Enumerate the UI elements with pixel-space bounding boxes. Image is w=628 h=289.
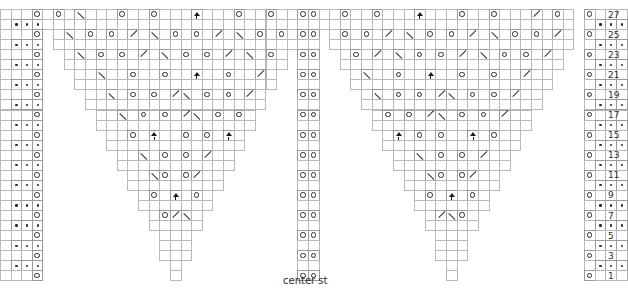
ssk-icon <box>139 50 149 59</box>
yo-icon <box>309 231 319 240</box>
yo-icon <box>436 151 446 160</box>
yo-icon <box>128 131 138 140</box>
purl-icon <box>22 80 32 89</box>
yo-icon <box>490 131 500 140</box>
purl-icon <box>22 221 32 230</box>
yo-icon <box>182 50 192 59</box>
purl-icon <box>606 261 616 270</box>
yo-icon <box>490 90 500 99</box>
yo-icon <box>351 50 361 59</box>
k2tog-icon <box>107 90 117 99</box>
purl-icon <box>12 261 22 270</box>
cdd-icon <box>468 131 478 140</box>
chart-cell-r14-c48 <box>510 140 522 151</box>
purl-icon <box>33 100 43 109</box>
purl-icon <box>617 261 627 270</box>
purl-icon <box>606 121 616 130</box>
yo-icon <box>309 211 319 220</box>
yo-icon <box>171 30 181 39</box>
row-number-1: 1 <box>608 272 614 281</box>
yo-icon <box>309 191 319 200</box>
chart-cell-r18-c24 <box>255 99 267 110</box>
yo-icon <box>33 171 43 180</box>
purl-icon <box>617 241 627 250</box>
purl-icon <box>596 241 606 250</box>
yo-icon <box>54 10 64 19</box>
yo-icon <box>309 70 319 79</box>
yo-icon <box>585 111 595 120</box>
yo-icon <box>585 211 595 220</box>
purl-icon <box>22 241 32 250</box>
purl-icon <box>606 201 616 210</box>
purl-icon <box>596 40 606 49</box>
yo-icon <box>309 10 319 19</box>
k2tog-icon <box>415 151 425 160</box>
ssk-icon <box>192 171 202 180</box>
purl-icon <box>12 60 22 69</box>
yo-icon <box>128 90 138 99</box>
yo-icon <box>532 30 542 39</box>
purl-icon <box>617 201 627 210</box>
yo-icon <box>585 171 595 180</box>
purl-icon <box>12 141 22 150</box>
chart-cell-r1-c42 <box>446 270 458 281</box>
yo-icon <box>500 50 510 59</box>
ssk-icon <box>521 70 531 79</box>
purl-icon <box>12 201 22 210</box>
purl-icon <box>617 141 627 150</box>
yo-icon <box>394 90 404 99</box>
chart-cell-r10-c20 <box>212 180 224 191</box>
yo-icon <box>128 70 138 79</box>
k2tog-icon <box>139 151 149 160</box>
row-number-21: 21 <box>608 71 619 80</box>
yo-icon <box>298 70 308 79</box>
ssk-icon <box>182 111 192 120</box>
chart-cell-r1-c16 <box>170 270 182 281</box>
yo-icon <box>33 271 43 280</box>
chart-cell-r12-c47 <box>499 160 511 171</box>
chart-cell-r16-c23 <box>244 120 256 131</box>
yo-icon <box>405 111 415 120</box>
cdd-icon <box>394 131 404 140</box>
yo-icon <box>203 131 213 140</box>
purl-icon <box>33 221 43 230</box>
purl-icon <box>33 161 43 170</box>
k2tog-icon <box>97 70 107 79</box>
yo-icon <box>479 111 489 120</box>
yo-icon <box>192 30 202 39</box>
purl-icon <box>596 181 606 190</box>
yo-icon <box>585 30 595 39</box>
purl-icon <box>12 161 22 170</box>
yo-icon <box>235 111 245 120</box>
yo-icon <box>235 10 245 19</box>
yo-icon <box>309 251 319 260</box>
chart-cell-r16-c49 <box>520 120 532 131</box>
purl-icon <box>12 40 22 49</box>
chart-cell-r14-c22 <box>234 140 246 151</box>
yo-icon <box>267 50 277 59</box>
row-number-5: 5 <box>608 232 614 241</box>
yo-icon <box>458 111 468 120</box>
purl-icon <box>22 100 32 109</box>
yo-icon <box>585 70 595 79</box>
purl-icon <box>617 100 627 109</box>
k2tog-icon <box>118 111 128 120</box>
row-number-19: 19 <box>608 91 619 100</box>
k2tog-icon <box>394 50 404 59</box>
yo-icon <box>118 50 128 59</box>
chart-cell-r8-c19 <box>202 200 214 211</box>
purl-icon <box>617 161 627 170</box>
yo-icon <box>585 231 595 240</box>
yo-icon <box>458 151 468 160</box>
ssk-icon <box>224 50 234 59</box>
ssk-icon <box>436 90 446 99</box>
yo-icon <box>298 30 308 39</box>
purl-icon <box>22 121 32 130</box>
k2tog-icon <box>436 111 446 120</box>
yo-icon <box>436 131 446 140</box>
row-number-15: 15 <box>608 131 619 140</box>
yo-icon <box>33 50 43 59</box>
purl-icon <box>22 40 32 49</box>
purl-icon <box>606 60 616 69</box>
